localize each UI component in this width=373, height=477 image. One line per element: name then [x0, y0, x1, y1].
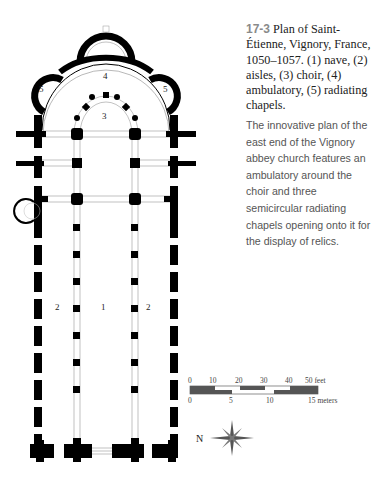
transverse-buttresses — [16, 131, 196, 202]
label-aisle-right: 2 — [146, 302, 151, 312]
label-chapel-right: 5 — [163, 84, 168, 94]
left-chapel — [35, 78, 62, 112]
right-chapel — [150, 78, 177, 112]
label-aisle-left: 2 — [55, 302, 60, 312]
scale-feet-0: 0 — [188, 376, 192, 385]
arcade-lines — [42, 131, 170, 455]
scale-m-10: 10 — [266, 396, 274, 405]
scale-feet-30: 30 — [260, 376, 268, 385]
scale-feet-20: 20 — [235, 376, 243, 385]
west-facade — [30, 438, 178, 462]
label-nave: 1 — [101, 302, 106, 312]
scale-feet-50: 50 feet — [305, 376, 326, 385]
scale-bar — [190, 386, 318, 394]
scale-feet-10: 10 — [209, 376, 217, 385]
west-portal — [92, 448, 112, 454]
compass-north-label: N — [196, 433, 203, 444]
label-chapel-left: 5 — [39, 84, 44, 94]
scale-m-5: 5 — [229, 396, 233, 405]
scale-m-0: 0 — [188, 396, 192, 405]
wall-windows — [34, 148, 178, 434]
scale-feet-40: 40 — [285, 376, 293, 385]
label-ambulatory: 4 — [103, 71, 108, 81]
figure-number: 17-3 — [246, 22, 270, 36]
scale-m-15: 15 meters — [308, 396, 337, 405]
compass-rose-icon — [210, 420, 254, 456]
piers — [71, 128, 141, 393]
figure-caption: 17-3 Plan of Saint-Étienne, Vignory, Fra… — [246, 22, 371, 114]
label-choir: 3 — [102, 111, 107, 121]
figure-description: The innovative plan of the east end of t… — [246, 117, 373, 250]
